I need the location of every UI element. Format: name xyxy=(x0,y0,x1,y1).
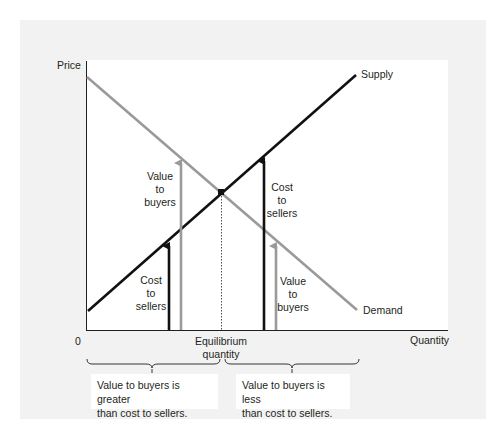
left-value-to-buyers-label: Value to buyers xyxy=(140,170,180,209)
demand-label: Demand xyxy=(363,304,403,317)
label-line: to xyxy=(140,183,180,196)
equilibrium-label-line1: Equilibrium xyxy=(190,335,252,348)
label-line: to xyxy=(131,287,171,300)
y-axis-label: Price xyxy=(57,59,81,72)
right-cost-to-sellers-label: Cost to sellers xyxy=(262,181,302,220)
x-axis-label: Quantity xyxy=(410,334,449,347)
left-note-line2: than cost to sellers. xyxy=(97,406,212,420)
left-note-line1: Value to buyers is greater xyxy=(97,378,212,406)
right-note-box: Value to buyers is less than cost to sel… xyxy=(236,374,350,409)
label-line: to xyxy=(262,194,302,207)
equilibrium-point xyxy=(218,189,224,195)
origin-label: 0 xyxy=(75,335,81,348)
supply-label: Supply xyxy=(361,68,393,81)
label-line: sellers xyxy=(131,300,171,313)
label-line: buyers xyxy=(273,301,313,314)
right-note-line1: Value to buyers is less xyxy=(242,378,344,406)
left-note-box: Value to buyers is greater than cost to … xyxy=(91,374,218,409)
right-value-to-buyers-label: Value to buyers xyxy=(273,275,313,314)
label-line: Cost xyxy=(131,274,171,287)
left-cost-to-sellers-label: Cost to sellers xyxy=(131,274,171,313)
label-line: to xyxy=(273,288,313,301)
equilibrium-quantity-label: Equilibrium quantity xyxy=(190,335,252,361)
label-line: Value xyxy=(273,275,313,288)
label-line: Value xyxy=(140,170,180,183)
equilibrium-label-line2: quantity xyxy=(190,348,252,361)
label-line: Cost xyxy=(262,181,302,194)
right-note-line2: than cost to sellers. xyxy=(242,406,344,420)
label-line: sellers xyxy=(262,207,302,220)
label-line: buyers xyxy=(140,196,180,209)
